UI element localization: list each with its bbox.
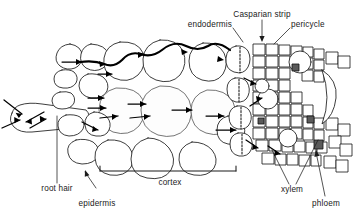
label-xylem: xylem (281, 185, 303, 194)
root-cross-section-diagram: Casparian strip endodermis pericycle roo… (0, 0, 354, 220)
label-root-hair: root hair (41, 184, 73, 193)
label-phloem: phloem (312, 199, 340, 208)
label-epidermis: epidermis (79, 199, 116, 208)
label-casparian-strip: Casparian strip (233, 10, 291, 19)
label-pericycle: pericycle (291, 20, 325, 29)
label-endodermis: endodermis (188, 20, 232, 29)
label-cortex: cortex (158, 178, 181, 187)
